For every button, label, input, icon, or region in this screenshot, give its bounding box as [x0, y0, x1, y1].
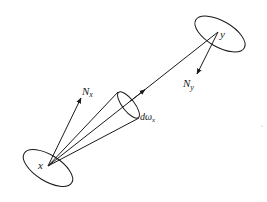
normal-nx-label: Nx — [81, 85, 93, 99]
cone-edge-upper — [48, 92, 118, 166]
normal-nx-arrow — [48, 98, 81, 166]
point-y-label: y — [219, 28, 225, 40]
cone-opening — [114, 89, 143, 122]
normal-ny-label: Ny — [182, 77, 194, 92]
radiance-diagram: x y Nx Ny dωx — [0, 0, 267, 202]
normal-ny-arrow — [197, 32, 218, 74]
speck — [261, 125, 262, 126]
point-x-label: x — [37, 159, 43, 171]
surface-patch-x — [17, 142, 78, 194]
cone-edge-lower — [48, 118, 139, 166]
solid-angle-label: dωx — [140, 111, 156, 124]
